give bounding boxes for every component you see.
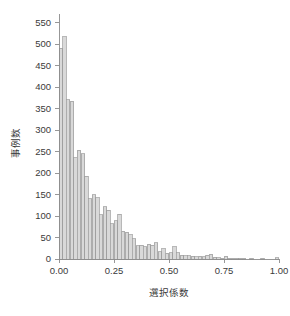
histogram-bar xyxy=(77,150,81,259)
histogram-bar xyxy=(121,231,125,259)
histogram-bar xyxy=(70,101,74,259)
histogram-bar xyxy=(99,215,103,259)
histogram-bar xyxy=(59,48,63,259)
y-tick-label: 0 xyxy=(46,253,51,264)
x-tick-label: 0.25 xyxy=(105,265,124,276)
histogram-bar xyxy=(206,255,210,259)
histogram-bar xyxy=(125,232,129,259)
histogram-bar xyxy=(103,207,107,259)
x-tick-label: 0.50 xyxy=(160,265,179,276)
histogram-bar xyxy=(140,245,144,259)
histogram-bar xyxy=(63,37,67,259)
y-tick-label: 50 xyxy=(40,232,51,243)
histogram-bar xyxy=(147,244,151,259)
y-tick-label: 350 xyxy=(35,103,51,114)
histogram-bar xyxy=(85,176,89,259)
histogram-bar xyxy=(107,210,111,259)
histogram-bar xyxy=(158,252,162,259)
histogram-bar xyxy=(88,199,92,259)
histogram-bar xyxy=(118,214,122,259)
y-tick-label: 450 xyxy=(35,60,51,71)
y-tick-label: 200 xyxy=(35,167,51,178)
histogram-bar xyxy=(114,221,118,259)
histogram-bar xyxy=(209,254,213,259)
x-tick-label: 0.00 xyxy=(50,265,69,276)
x-tick-label: 1.00 xyxy=(270,265,289,276)
y-tick-label: 300 xyxy=(35,124,51,135)
histogram-bar xyxy=(169,253,173,259)
histogram-bar xyxy=(129,235,133,260)
histogram-figure: 0.000.250.500.751.00 0501001502002503003… xyxy=(0,0,290,316)
histogram-bar xyxy=(180,255,184,259)
histogram-bar xyxy=(154,243,158,259)
histogram-bar xyxy=(173,247,177,259)
histogram-bar xyxy=(143,247,147,259)
y-tick-label: 150 xyxy=(35,189,51,200)
y-axis-title: 事例数 xyxy=(10,128,21,158)
histogram-bar xyxy=(66,100,70,259)
histogram-bar xyxy=(96,198,100,259)
histogram-bar xyxy=(136,246,140,259)
histogram-bar xyxy=(184,256,188,259)
x-axis-title: 選択係数 xyxy=(149,287,189,298)
histogram-bar xyxy=(151,245,155,259)
histogram-bar xyxy=(187,256,191,259)
histogram-bar xyxy=(92,195,96,259)
y-tick-label: 500 xyxy=(35,38,51,49)
histogram-bar xyxy=(81,154,85,259)
y-tick-label: 400 xyxy=(35,81,51,92)
chart-canvas: 0.000.250.500.751.00 0501001502002503003… xyxy=(0,0,290,316)
y-tick-label: 550 xyxy=(35,17,51,28)
histogram-bar xyxy=(162,249,166,259)
x-tick-label: 0.75 xyxy=(215,265,234,276)
histogram-bar xyxy=(165,253,169,259)
histogram-bar xyxy=(74,158,78,259)
histogram-bar xyxy=(132,239,136,259)
histogram-bar xyxy=(176,253,180,259)
y-tick-label: 250 xyxy=(35,146,51,157)
histogram-bar xyxy=(110,224,114,259)
y-tick-label: 100 xyxy=(35,210,51,221)
